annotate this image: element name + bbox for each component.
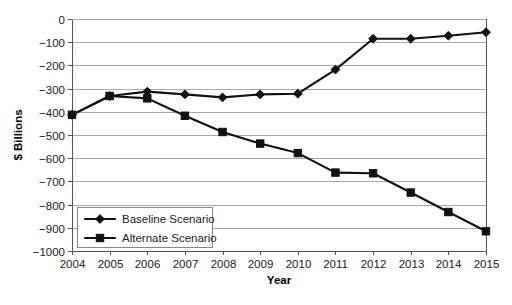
y-tick-labels-group: 0−100−200−300−400−500−600−700−800−900−10… xyxy=(33,14,65,258)
y-tick-label: 0 xyxy=(59,14,65,26)
chart-legend: Baseline ScenarioAlternate Scenario xyxy=(78,208,217,248)
y-tick-label: −100 xyxy=(39,37,65,49)
x-tick-label: 2014 xyxy=(436,258,462,270)
series-group xyxy=(68,28,491,235)
data-point-marker xyxy=(406,34,415,43)
x-tick-label: 2013 xyxy=(399,258,425,270)
chart-container: 0−100−200−300−400−500−600−700−800−900−10… xyxy=(0,0,512,305)
data-point-marker xyxy=(294,149,301,156)
x-tick-label: 2004 xyxy=(60,258,86,270)
data-point-marker xyxy=(218,93,227,102)
series-baseline xyxy=(68,28,491,119)
x-tick-label: 2008 xyxy=(211,258,237,270)
gridlines-group xyxy=(72,20,486,229)
x-tick-label: 2012 xyxy=(361,258,387,270)
data-point-marker xyxy=(68,111,75,118)
y-tick-label: −400 xyxy=(39,107,65,119)
y-tick-label: −1000 xyxy=(33,246,65,258)
data-point-marker xyxy=(407,189,414,196)
x-tick-label: 2007 xyxy=(173,258,199,270)
data-point-marker xyxy=(219,128,226,135)
data-point-marker xyxy=(444,31,453,40)
data-point-marker xyxy=(445,208,452,215)
x-tick-label: 2005 xyxy=(98,258,124,270)
y-tick-label: −200 xyxy=(39,60,65,72)
legend-label: Baseline Scenario xyxy=(122,213,215,225)
data-point-marker xyxy=(482,228,489,235)
data-point-marker xyxy=(144,95,151,102)
x-tick-label: 2015 xyxy=(474,258,500,270)
series-line xyxy=(72,32,486,115)
y-tick-label: −300 xyxy=(39,84,65,96)
x-tick-label: 2011 xyxy=(323,258,348,270)
x-axis-title: Year xyxy=(267,274,292,286)
data-point-marker xyxy=(181,112,188,119)
y-tick-marks-group xyxy=(68,20,72,252)
data-point-marker xyxy=(482,28,491,37)
data-point-marker xyxy=(181,90,190,99)
legend-label: Alternate Scenario xyxy=(122,232,217,244)
data-point-marker xyxy=(106,92,113,99)
x-tick-label: 2006 xyxy=(135,258,161,270)
x-tick-labels-group: 2004200520062007200820092010201120122013… xyxy=(60,258,500,270)
y-tick-label: −600 xyxy=(39,153,65,165)
data-point-marker xyxy=(332,169,339,176)
y-tick-label: −500 xyxy=(39,130,65,142)
x-tick-label: 2010 xyxy=(286,258,312,270)
data-point-marker xyxy=(369,170,376,177)
y-tick-label: −700 xyxy=(39,176,65,188)
x-tick-label: 2009 xyxy=(248,258,274,270)
data-point-marker xyxy=(256,90,265,99)
data-point-marker xyxy=(256,140,263,147)
y-tick-label: −800 xyxy=(39,200,65,212)
y-axis-title: $ Billions xyxy=(12,109,24,160)
legend-marker xyxy=(96,234,103,241)
y-tick-label: −900 xyxy=(39,223,65,235)
line-chart: 0−100−200−300−400−500−600−700−800−900−10… xyxy=(0,0,512,305)
